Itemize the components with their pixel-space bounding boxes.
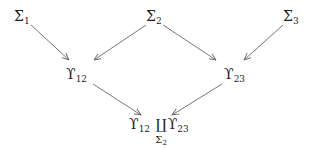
arrow-sigma2-to-upsilon12 [94, 25, 146, 60]
coproduct-subscript: Σ2 [155, 133, 167, 149]
arrow-upsilon12-to-pushout [93, 84, 141, 115]
arrow-sigma1-to-upsilon12 [31, 25, 69, 60]
node-upsilon12: ϒ12 [66, 67, 87, 86]
arrow-upsilon23-to-pushout [172, 84, 222, 115]
node-sigma3: Σ3 [283, 9, 299, 28]
node-pushout: ϒ12 ∐ Σ2 ϒ23 [129, 117, 189, 136]
node-upsilon23: ϒ23 [224, 67, 245, 86]
coproduct-symbol: ∐ Σ2 [156, 117, 167, 131]
arrow-sigma2-to-upsilon23 [163, 25, 216, 60]
node-sigma2: Σ2 [146, 9, 162, 28]
node-sigma1: Σ1 [14, 9, 30, 28]
arrow-sigma3-to-upsilon23 [244, 25, 283, 60]
